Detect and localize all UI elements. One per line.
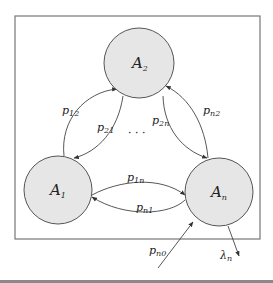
label-lambda-n: λn [219,249,232,263]
node-an: An [185,158,253,226]
edge-pn0-inflow [158,222,193,268]
node-a1: A1 [24,156,92,224]
node-a2: A2 [104,28,174,98]
edge-p2n [163,96,207,158]
ellipsis-more-states: · · · [128,127,145,140]
edge-lambda-n-outflow [228,226,239,256]
label-p12: p12 [62,104,79,118]
label-pn0: pn0 [149,244,166,258]
label-pn1: pn1 [136,201,153,215]
label-pn2: pn2 [203,104,220,118]
label-p1n: p1n [127,171,144,185]
state-graph: A2 A1 An p12 p21 p2n pn2 p1n pn1 pn0 λn … [0,0,273,283]
label-p2n: p2n [152,114,169,128]
diagram-canvas: A2 A1 An p12 p21 p2n pn2 p1n pn1 pn0 λn … [0,0,273,283]
label-p21: p21 [97,121,114,135]
edge-p12 [64,89,117,156]
